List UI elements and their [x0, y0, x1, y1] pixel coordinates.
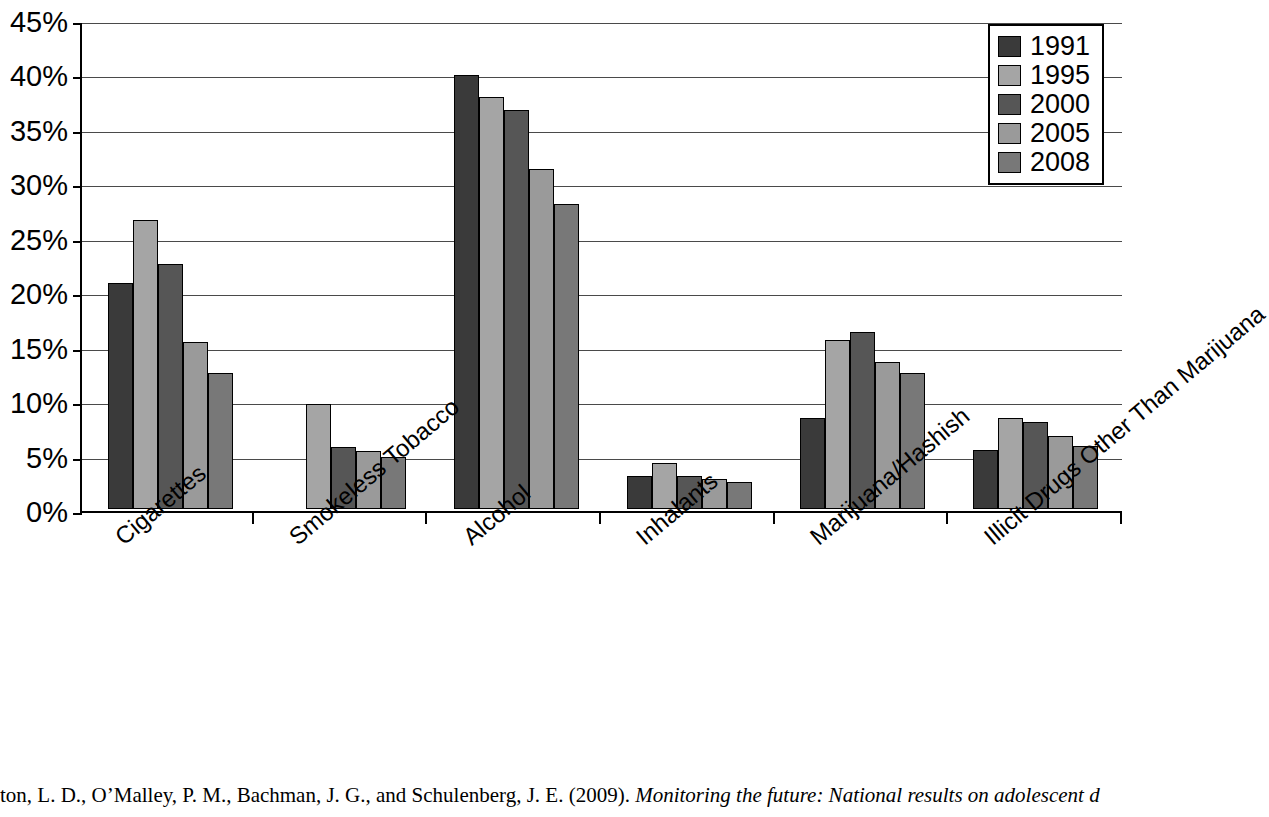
bar-group — [84, 23, 257, 509]
legend-label: 1991 — [1030, 33, 1090, 60]
y-axis-tick-label: 10% — [0, 389, 68, 418]
bar-slot — [504, 23, 529, 509]
legend-swatch-icon — [998, 65, 1021, 86]
citation-text: ton, L. D., O’Malley, P. M., Bachman, J.… — [0, 783, 1137, 807]
plot-area — [80, 23, 1122, 513]
legend-row[interactable]: 1995 — [998, 61, 1090, 90]
bar-slot — [702, 23, 727, 509]
y-axis-tick-mark — [73, 132, 82, 134]
legend-label: 1995 — [1030, 62, 1090, 89]
citation-prefix: ton, L. D., O’Malley, P. M., Bachman, J.… — [0, 783, 635, 807]
bar-groups — [84, 23, 1122, 509]
bar-slot — [133, 23, 158, 509]
bar[interactable] — [973, 450, 998, 509]
bar-slot — [183, 23, 208, 509]
bar[interactable] — [454, 75, 479, 509]
legend: 19911995200020052008 — [988, 24, 1104, 185]
legend-row[interactable]: 2008 — [998, 148, 1090, 177]
y-axis-tick-mark — [73, 77, 82, 79]
legend-swatch-icon — [998, 152, 1021, 173]
y-axis-tick-mark — [73, 241, 82, 243]
bar-group — [603, 23, 776, 509]
y-axis-tick-label: 5% — [0, 444, 68, 473]
citation-title: Monitoring the future: National results … — [635, 783, 1100, 807]
bar-slot — [479, 23, 504, 509]
x-axis-category-labels: CigarettesSmokeless TobaccoAlcoholInhala… — [80, 513, 1122, 763]
y-axis-tick-label: 45% — [0, 8, 68, 37]
legend-row[interactable]: 2000 — [998, 90, 1090, 119]
bar-slot — [331, 23, 356, 509]
bar[interactable] — [800, 418, 825, 509]
bar-slot — [306, 23, 331, 509]
bar[interactable] — [627, 476, 652, 509]
bar-slot — [454, 23, 479, 509]
bar-slot — [875, 23, 900, 509]
bar[interactable] — [133, 220, 158, 509]
bar-slot — [825, 23, 850, 509]
bar[interactable] — [529, 169, 554, 509]
bar-slot — [800, 23, 825, 509]
bar-slot — [850, 23, 875, 509]
bar-slot — [554, 23, 579, 509]
bar[interactable] — [825, 340, 850, 509]
legend-row[interactable]: 1991 — [998, 32, 1090, 61]
bar-slot — [677, 23, 702, 509]
y-axis-tick-mark — [73, 459, 82, 461]
bar[interactable] — [554, 204, 579, 509]
y-axis-tick-mark — [73, 295, 82, 297]
y-axis-tick-label: 30% — [0, 171, 68, 200]
y-axis-tick-mark — [73, 23, 82, 25]
y-axis-tick-label: 35% — [0, 117, 68, 146]
y-axis-tick-mark — [73, 350, 82, 352]
bar-slot — [727, 23, 752, 509]
bar-slot — [208, 23, 233, 509]
legend-swatch-icon — [998, 36, 1021, 57]
bar-slot — [281, 23, 306, 509]
bar-slot — [627, 23, 652, 509]
bar-group — [430, 23, 603, 509]
y-axis-tick-label: 40% — [0, 62, 68, 91]
bar-slot — [652, 23, 677, 509]
legend-label: 2000 — [1030, 91, 1090, 118]
bar[interactable] — [108, 283, 133, 509]
y-axis-tick-label: 25% — [0, 226, 68, 255]
y-axis-tick-label: 20% — [0, 280, 68, 309]
bar-slot — [108, 23, 133, 509]
bar[interactable] — [208, 373, 233, 509]
bar-slot — [356, 23, 381, 509]
y-axis-tick-mark — [73, 404, 82, 406]
legend-swatch-icon — [998, 94, 1021, 115]
legend-label: 2005 — [1030, 120, 1090, 147]
bar[interactable] — [727, 482, 752, 509]
bar-slot — [158, 23, 183, 509]
legend-row[interactable]: 2005 — [998, 119, 1090, 148]
y-axis-tick-label: 15% — [0, 335, 68, 364]
bar[interactable] — [504, 110, 529, 509]
legend-swatch-icon — [998, 123, 1021, 144]
legend-label: 2008 — [1030, 149, 1090, 176]
bar-slot — [529, 23, 554, 509]
y-axis-tick-mark — [73, 186, 82, 188]
bar[interactable] — [479, 97, 504, 509]
y-axis-tick-label: 0% — [0, 498, 68, 527]
